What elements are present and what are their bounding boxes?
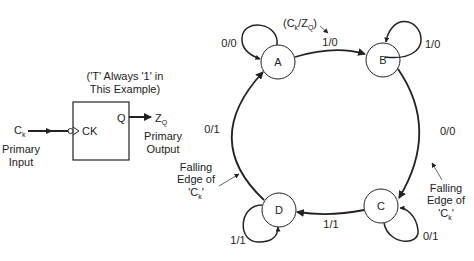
toggle-note-line1: ('T' Always '1' in (87, 70, 164, 82)
svg-text:Edge of: Edge of (427, 194, 466, 206)
transition-c-to-d (297, 210, 364, 214)
diagram-canvas: ('T' Always '1' in This Example) Ck CK P… (0, 0, 474, 261)
state-d-label: D (275, 204, 283, 216)
clock-pin-label: CK (82, 125, 98, 137)
self-loop-b-label: 1/0 (425, 38, 440, 50)
transition-b-to-c (398, 69, 419, 198)
svg-text:Falling: Falling (180, 161, 212, 173)
state-b-label: B (379, 54, 386, 66)
state-d: D (262, 193, 296, 227)
state-b: B (366, 43, 400, 77)
falling-edge-note-right: Falling Edge of 'Ck' (427, 163, 466, 221)
state-diagram: (Ck/ZQ) A B C D 1/0 0/0 1/1 0/1 (177, 17, 466, 246)
state-c-label: C (377, 200, 385, 212)
primary-output-label-line2: Output (146, 143, 179, 155)
self-loop-c-label: 0/1 (423, 230, 438, 242)
transition-d-to-a (232, 72, 264, 200)
svg-text:Falling: Falling (430, 182, 462, 194)
transition-a-to-b (295, 50, 365, 57)
transition-c-to-d-label: 1/1 (323, 218, 338, 230)
output-pin-label: Q (117, 112, 126, 124)
self-loop-d-label: 1/1 (230, 234, 245, 246)
inversion-bubble-icon (68, 129, 73, 134)
toggle-note-line2: This Example) (90, 83, 160, 95)
transition-legend: (Ck/ZQ) (283, 17, 317, 32)
flip-flop: ('T' Always '1' in This Example) Ck CK P… (2, 70, 182, 168)
primary-input-label-line2: Input (9, 156, 33, 168)
transition-b-to-c-label: 0/0 (440, 125, 455, 137)
clock-triangle-icon (73, 127, 79, 135)
svg-text:'Ck': 'Ck' (438, 207, 454, 221)
legend-pointer-arrow (320, 26, 328, 33)
falling-edge-note-left: Falling Edge of 'Ck' (177, 161, 239, 200)
input-signal: Ck (14, 124, 26, 138)
state-a: A (261, 45, 295, 79)
falling-edge-left-pointer (219, 174, 239, 186)
primary-output-label-line1: Primary (144, 130, 182, 142)
self-loop-a-label: 0/0 (221, 37, 236, 49)
svg-text:Edge of: Edge of (177, 173, 216, 185)
input-arrow-icon (46, 128, 53, 134)
falling-edge-right-pointer (432, 163, 442, 180)
svg-text:'Ck': 'Ck' (188, 186, 204, 200)
transition-a-to-b-label: 1/0 (322, 36, 337, 48)
primary-input-label-line1: Primary (2, 143, 40, 155)
transition-d-to-a-label: 0/1 (204, 123, 219, 135)
output-signal: ZQ (155, 112, 168, 127)
state-c: C (364, 189, 398, 223)
state-a-label: A (274, 56, 282, 68)
